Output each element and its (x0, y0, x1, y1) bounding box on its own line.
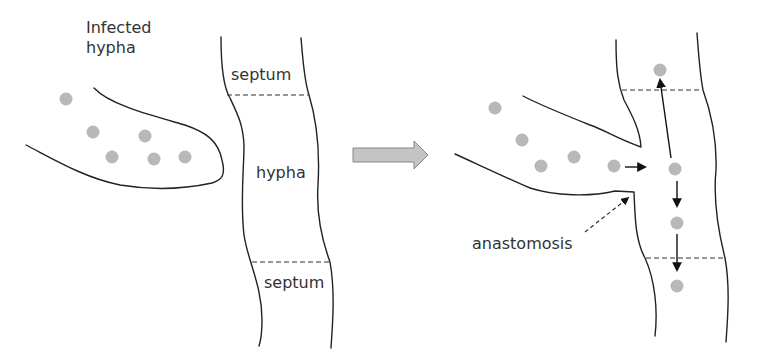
arrow-up (660, 80, 671, 158)
hypha-label: hypha (256, 163, 306, 183)
anastomosis-label: anastomosis (472, 234, 573, 254)
anastomosis-pointer-arrow (585, 198, 628, 232)
infected-hypha-particles (60, 93, 192, 166)
septum-bottom-label: septum (264, 273, 324, 293)
movement-arrows (585, 80, 677, 270)
infected-hypha-branch (26, 88, 224, 189)
septum-top-label: septum (231, 65, 291, 85)
transition-arrow-icon (353, 141, 428, 169)
anastomosed-hypha (455, 33, 728, 342)
infected-hypha-label: Infected hypha (86, 18, 151, 58)
